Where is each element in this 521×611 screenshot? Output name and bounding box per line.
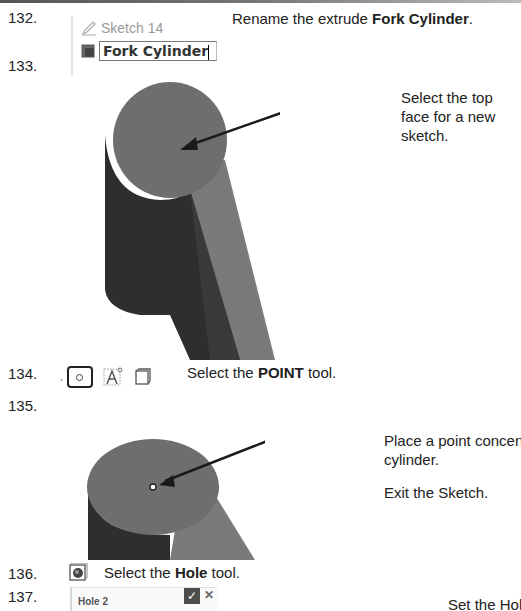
step-number-132: 132. <box>8 9 37 26</box>
instruction-text: Rename the extrude <box>232 10 372 27</box>
instruction-bold: Hole <box>175 564 208 581</box>
step-number-134: 134. <box>8 365 37 382</box>
text-icon[interactable] <box>103 367 123 387</box>
rename-input-value: Fork Cylinder <box>103 43 208 59</box>
step-number-133: 133. <box>8 57 37 74</box>
cylinder-point-view <box>85 435 265 560</box>
extrude-icon <box>81 44 95 58</box>
point-marker <box>150 484 156 490</box>
tree-item-sketch-14[interactable]: Sketch 14 <box>81 20 163 36</box>
step-number-135: 135. <box>8 397 37 414</box>
instruction-136: Select the Hole tool. <box>104 563 240 582</box>
hole-dialog: Hole 2 ✓ ✕ <box>70 587 217 611</box>
point-icon <box>76 374 83 381</box>
tick-mark: , <box>60 372 63 382</box>
instruction-text: Select the <box>187 364 258 381</box>
step-number-137: 137. <box>8 588 37 605</box>
instruction-line: sketch. <box>401 126 521 145</box>
instruction-text: tool. <box>207 564 240 581</box>
top-border <box>0 0 521 3</box>
instruction-text: . <box>469 10 473 27</box>
text-caret <box>208 45 209 60</box>
cylinder-3d-view <box>90 60 280 360</box>
step-number-136: 136. <box>8 565 37 582</box>
pencil-icon <box>81 20 97 36</box>
rename-input[interactable]: Fork Cylinder <box>99 41 217 61</box>
instruction-137: Set the Hole ... Simple <box>448 596 521 611</box>
hole-dialog-title: Hole 2 <box>78 596 108 607</box>
sketch-toolbar: , <box>60 366 151 388</box>
top-face <box>113 82 227 198</box>
tree-item-label: Sketch 14 <box>101 20 163 36</box>
instruction-text: tool. <box>304 364 337 381</box>
instruction-line: cylinder. <box>384 450 521 469</box>
tree-item-extrude[interactable]: Fork Cylinder <box>81 41 217 61</box>
instruction-135: Place a point concentric to th cylinder.… <box>384 431 521 502</box>
instruction-bold: Fork Cylinder <box>372 10 469 27</box>
point-tool-button[interactable] <box>67 366 93 388</box>
instruction-133: Select the top face for a new sketch. <box>401 88 521 145</box>
instruction-132: Rename the extrude Fork Cylinder. <box>232 9 473 28</box>
cancel-button[interactable]: ✕ <box>204 588 214 602</box>
plane-icon[interactable] <box>133 368 151 386</box>
instruction-line: Select the top face for a new <box>401 88 521 126</box>
instruction-line: Place a point concentric to th <box>384 431 521 450</box>
confirm-button[interactable]: ✓ <box>184 588 200 604</box>
instruction-line: Exit the Sketch. <box>384 483 521 502</box>
instruction-134: Select the POINT tool. <box>187 363 336 382</box>
instruction-bold: POINT <box>258 364 304 381</box>
hole-icon[interactable] <box>68 563 88 583</box>
instruction-text: Select the <box>104 564 175 581</box>
